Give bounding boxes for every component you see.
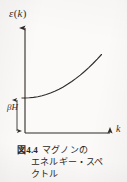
energy-gap-label: βH [7,103,18,112]
figure-caption: 図4.4マグノンの エネルギー・スペ クトル [0,141,127,182]
dispersion-curve [25,55,102,99]
figure-number: 図4.4 [17,145,38,155]
y-axis-label-paren-close: ) [23,7,27,19]
caption-line-3: クトル [31,169,59,179]
x-axis-label: k [116,124,120,134]
y-axis-label: ε(k) [9,8,27,19]
figure-page: ε(k) k βH 図4.4マグノンの エネルギー・スペ クトル [0,0,127,182]
caption-line-1: 図4.4マグノンの [17,145,88,155]
magnon-spectrum-plot [0,0,127,140]
caption-text-line-1: マグノンの [42,145,88,155]
caption-line-2: エネルギー・スペ [31,157,104,167]
